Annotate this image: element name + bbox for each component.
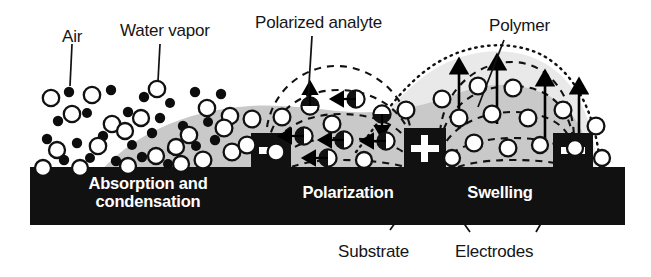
sensor-mechanism-svg: [0, 0, 651, 277]
diagram-canvas: [0, 0, 651, 277]
stage-label-absorption-condensation: Absorption and condensation: [40, 174, 256, 211]
leader-polarized-analyte: [308, 36, 312, 100]
plus-glyph-v: [421, 135, 428, 162]
label-air: Air: [62, 28, 82, 45]
stage-label-line1: Absorption and: [88, 174, 207, 192]
label-electrodes: Electrodes: [455, 243, 533, 260]
stage-label-polarization: Polarization: [278, 183, 418, 201]
label-polarized-analyte: Polarized analyte: [255, 14, 382, 31]
leader-air: [70, 44, 72, 86]
label-water-vapor: Water vapor: [120, 22, 210, 39]
stage-label-line1: Swelling: [467, 183, 532, 201]
label-substrate: Substrate: [338, 243, 409, 260]
stage-label-line1: Polarization: [302, 183, 393, 201]
electrode-center: [404, 128, 446, 169]
leader-water-vapor: [158, 44, 160, 81]
stage-label-line2: condensation: [96, 192, 201, 210]
label-polymer: Polymer: [489, 17, 550, 34]
stage-label-swelling: Swelling: [444, 183, 556, 201]
